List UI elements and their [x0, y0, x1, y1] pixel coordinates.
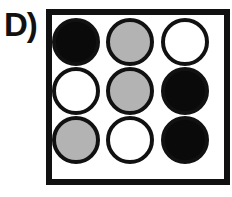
circle-black-r1c1: [52, 18, 100, 66]
circle-white-r3c2: [106, 116, 154, 164]
circle-gray-r2c2: [106, 67, 154, 115]
circle-white-r2c1: [52, 67, 100, 115]
circle-gray-r1c2: [106, 18, 154, 66]
circle-white-r1c3: [161, 18, 209, 66]
circle-grid-frame: [46, 9, 230, 185]
circle-black-r3c3: [161, 116, 209, 164]
circle-gray-r3c1: [52, 116, 100, 164]
circle-black-r2c3: [161, 67, 209, 115]
option-label: D): [4, 8, 37, 41]
